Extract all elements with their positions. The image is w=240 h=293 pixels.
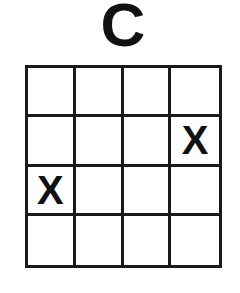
grid-cell-r3-c2[interactable]: [76, 167, 124, 216]
grid-cell-r3-c1[interactable]: X: [28, 167, 76, 216]
grid-cell-r1-c4[interactable]: [171, 68, 219, 117]
grid-cell-r1-c1[interactable]: [28, 68, 76, 117]
grid-cell-r1-c3[interactable]: [124, 68, 172, 117]
puzzle-grid: X X: [25, 65, 222, 268]
grid-cell-r4-c1[interactable]: [28, 216, 76, 265]
grid-cell-r4-c4[interactable]: [171, 216, 219, 265]
grid-cell-r2-c1[interactable]: [28, 117, 76, 166]
grid-cell-r4-c3[interactable]: [124, 216, 172, 265]
puzzle-title: C: [0, 0, 240, 56]
grid-cell-r1-c2[interactable]: [76, 68, 124, 117]
grid-cell-r3-c3[interactable]: [124, 167, 172, 216]
grid-cell-r3-c4[interactable]: [171, 167, 219, 216]
grid-cell-r4-c2[interactable]: [76, 216, 124, 265]
grid-cell-r2-c2[interactable]: [76, 117, 124, 166]
grid-cell-r2-c3[interactable]: [124, 117, 172, 166]
grid-cell-r2-c4[interactable]: X: [171, 117, 219, 166]
